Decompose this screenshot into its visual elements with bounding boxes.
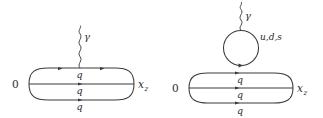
diagram-left: γ q q q 0 xz — [0, 0, 161, 118]
photon-label: γ — [84, 31, 90, 42]
endpoint-x-subscript: z — [302, 89, 307, 97]
quark-label-bottom: q — [237, 105, 243, 116]
photon-wavy-line — [240, 2, 242, 30]
endpoint-x-subscript: z — [143, 85, 148, 93]
quark-label-top: q — [237, 74, 243, 85]
diagram-right: γ u,d,s q q q 0 xz — [161, 0, 323, 118]
endpoint-label-x: xz — [138, 78, 148, 93]
quark-label-middle: q — [77, 85, 83, 96]
quark-loop-circle — [224, 31, 259, 66]
quark-label-top: q — [77, 69, 83, 80]
photon-label: γ — [245, 10, 251, 21]
photon-wavy-line — [79, 26, 81, 68]
quark-label-middle: q — [237, 89, 243, 100]
diagram-right-canvas: γ u,d,s q q q 0 xz — [161, 0, 323, 118]
quark-label-bottom: q — [77, 101, 83, 112]
endpoint-x-base: x — [138, 78, 144, 90]
diagram-left-canvas: γ q q q 0 xz — [0, 0, 161, 118]
endpoint-label-origin: 0 — [12, 78, 19, 90]
endpoint-x-base: x — [297, 82, 303, 94]
feynman-figure: γ q q q 0 xz — [0, 0, 323, 118]
endpoint-label-x: xz — [297, 82, 307, 97]
endpoint-label-origin: 0 — [172, 82, 179, 94]
arrow-loop-bottom — [238, 64, 243, 68]
loop-flavour-label: u,d,s — [260, 32, 282, 42]
